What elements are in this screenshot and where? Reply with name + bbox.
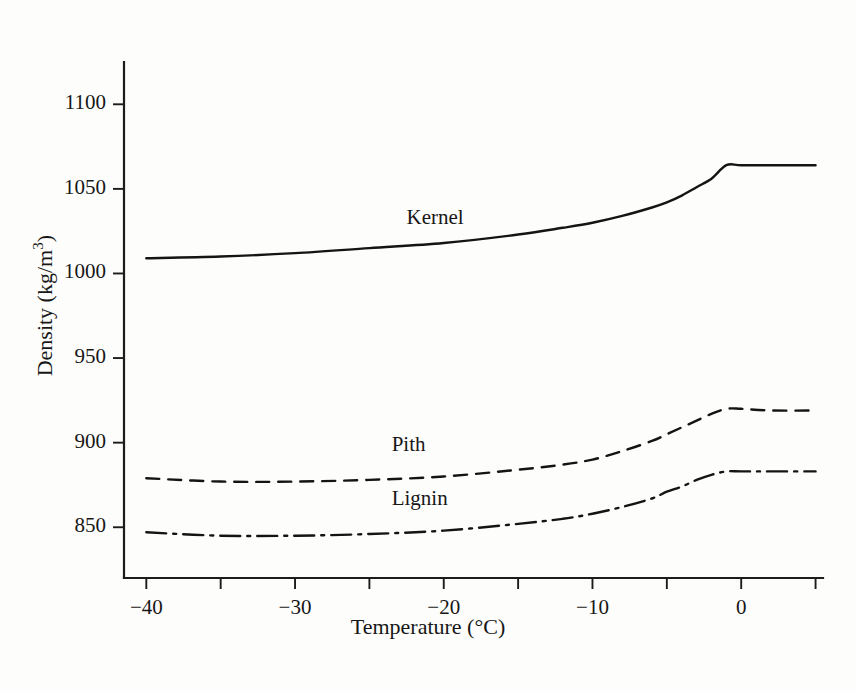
- chart-axes: [124, 62, 823, 578]
- axis-ticks: [113, 104, 816, 589]
- series-line-pith: [146, 408, 815, 482]
- x-axis-title: Temperature (°C): [0, 614, 856, 640]
- y-axis-title: Density (kg/m3): [30, 166, 57, 446]
- chart-canvas: [0, 0, 856, 691]
- series-label-lignin: Lignin: [392, 486, 448, 511]
- density-temperature-chart: 850900950100010501100 −40−30−20−100 Kern…: [0, 0, 856, 691]
- series-label-pith: Pith: [392, 432, 426, 457]
- y-axis-title-tail: ): [32, 235, 57, 242]
- y-axis-title-exponent: 3: [30, 242, 46, 249]
- y-axis-title-base: Density (kg/m: [32, 250, 57, 377]
- series-line-kernel: [146, 164, 815, 258]
- y-tick-label-850: 850: [20, 513, 106, 538]
- data-series-group: [146, 164, 815, 536]
- y-tick-label-1100: 1100: [20, 90, 106, 115]
- series-label-kernel: Kernel: [407, 205, 464, 230]
